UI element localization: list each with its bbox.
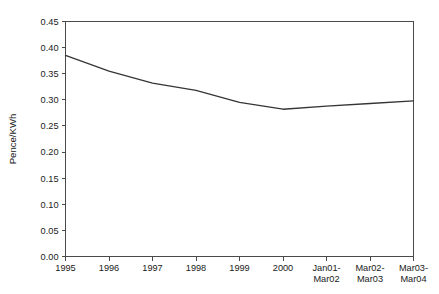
x-tick-label: Mar03-Mar04 bbox=[399, 263, 428, 284]
y-tick-label: 0.05 bbox=[41, 226, 59, 236]
x-tick-label: 1996 bbox=[99, 263, 119, 273]
y-tick-label: 0.30 bbox=[41, 95, 59, 105]
x-tick-label: 1998 bbox=[186, 263, 206, 273]
line-chart: 0.000.050.100.150.200.250.300.350.400.45… bbox=[0, 0, 439, 294]
y-tick-label: 0.35 bbox=[41, 69, 59, 79]
x-tick-label: 2000 bbox=[273, 263, 293, 273]
y-tick-label: 0.10 bbox=[41, 200, 59, 210]
x-tick-label: 1997 bbox=[142, 263, 162, 273]
y-tick-label: 0.40 bbox=[41, 43, 59, 53]
x-tick-label: Mar02-Mar03 bbox=[355, 263, 384, 284]
x-tick-label: 1999 bbox=[229, 263, 249, 273]
x-tick-label: Jan01-Mar02 bbox=[312, 263, 340, 284]
x-tick-label: 1995 bbox=[55, 263, 75, 273]
y-axis-title: Pence/KWh bbox=[7, 114, 18, 165]
y-tick-label: 0.15 bbox=[41, 174, 59, 184]
y-tick-label: 0.25 bbox=[41, 121, 59, 131]
chart-canvas: 0.000.050.100.150.200.250.300.350.400.45… bbox=[0, 0, 439, 294]
y-tick-label: 0.45 bbox=[41, 17, 59, 27]
y-tick-label: 0.20 bbox=[41, 147, 59, 157]
y-tick-label: 0.00 bbox=[41, 252, 59, 262]
